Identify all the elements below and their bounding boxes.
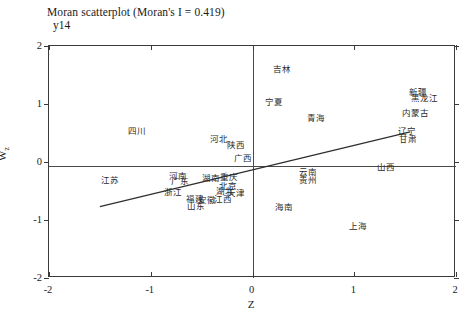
data-point-label: 山西	[377, 163, 395, 172]
chart-title: Moran scatterplot (Moran's I = 0.419)	[47, 6, 225, 18]
x-axis-tick	[253, 272, 254, 277]
data-point-label: 江西	[214, 195, 232, 204]
data-point-label: 广西	[234, 154, 252, 163]
data-point-label: 湖南	[202, 174, 220, 183]
y-axis-label-subscript: z	[2, 147, 11, 151]
data-point-label: 内蒙古	[402, 109, 429, 118]
data-point-label: 陕西	[227, 141, 245, 150]
x-axis-tick	[49, 272, 50, 277]
data-point-label: 青海	[307, 113, 325, 122]
x-axis-tick-label: -2	[44, 284, 53, 295]
data-point-label: 贵州	[299, 175, 317, 184]
y-axis-tick-label: -1	[26, 214, 42, 225]
x-axis-tick-top	[49, 45, 50, 50]
data-point-label: 甘肃	[399, 135, 417, 144]
data-point-label: 宁夏	[265, 98, 283, 107]
x-axis-tick-top	[253, 45, 254, 50]
data-point-label: 吉林	[273, 65, 291, 74]
y-axis-tick-right	[454, 46, 459, 47]
y-axis-tick-label: 2	[26, 40, 42, 51]
x-axis-tick-top	[151, 45, 152, 50]
y-axis-tick	[44, 162, 49, 163]
data-point-label: 浙江	[164, 187, 182, 196]
x-axis-tick-label: -1	[145, 284, 154, 295]
x-axis-tick-label: 2	[452, 284, 457, 295]
data-point-label: 重庆	[220, 172, 238, 181]
y-axis-label: Wz	[0, 147, 11, 161]
x-axis-tick-label: 1	[351, 284, 356, 295]
data-point-label: 上海	[349, 222, 367, 231]
data-point-label: 山东	[187, 202, 205, 211]
y-axis-tick	[44, 220, 49, 221]
y-axis-tick-right	[454, 162, 459, 163]
x-axis-tick-label: 0	[249, 284, 254, 295]
data-point-label: 河北	[210, 135, 228, 144]
series-label: y14	[53, 19, 70, 31]
y-axis-tick	[44, 278, 49, 279]
y-axis-tick-label: -2	[26, 272, 42, 283]
data-point-label: 江苏	[101, 176, 119, 185]
y-axis-tick	[44, 104, 49, 105]
data-point-label: 海南	[275, 203, 293, 212]
y-axis-tick-right	[454, 220, 459, 221]
data-point-label: 广东	[171, 177, 189, 186]
y-axis-tick-right	[454, 104, 459, 105]
x-axis-label: Z	[248, 298, 255, 310]
y-axis-tick-label: 1	[26, 98, 42, 109]
moran-scatterplot-page: Moran scatterplot (Moran's I = 0.419) y1…	[0, 0, 471, 326]
x-axis-tick	[456, 272, 457, 277]
data-point-label: 四川	[128, 127, 146, 136]
regression-line	[49, 46, 456, 278]
y-axis-tick-right	[454, 278, 459, 279]
x-axis-tick-top	[354, 45, 355, 50]
y-axis-tick-label: 0	[26, 156, 42, 167]
x-axis-tick	[354, 272, 355, 277]
y-axis-tick	[44, 46, 49, 47]
x-axis-tick	[151, 272, 152, 277]
data-point-label: 黑龙江	[411, 94, 438, 103]
